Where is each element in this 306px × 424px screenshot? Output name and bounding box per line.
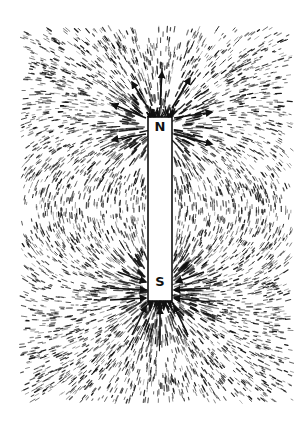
magnetic-field-figure: N S [0,0,306,424]
south-pole-label: S [148,274,172,289]
iron-filings-field [0,0,306,424]
north-pole-label: N [148,119,172,134]
